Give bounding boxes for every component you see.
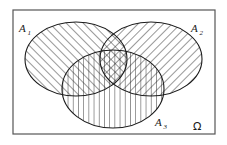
set-a2-label-letter: A bbox=[190, 22, 198, 34]
set-a1-label-subscript: 1 bbox=[28, 29, 32, 37]
venn-diagram-canvas: A 1 A 2 A 3 Ω bbox=[0, 0, 227, 145]
set-a1-label-letter: A bbox=[18, 22, 26, 34]
set-a3-label-subscript: 3 bbox=[163, 123, 168, 131]
sample-space-label: Ω bbox=[193, 120, 201, 133]
set-a3-label-letter: A bbox=[154, 116, 162, 128]
set-a2-label-subscript: 2 bbox=[200, 29, 204, 37]
venn-diagram-figure: A 1 A 2 A 3 Ω bbox=[0, 0, 227, 145]
